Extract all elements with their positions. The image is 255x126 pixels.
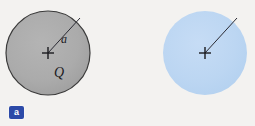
panel-badge-a: a bbox=[9, 106, 24, 119]
sphere-b-container bbox=[163, 8, 253, 98]
sphere-b-diagram bbox=[163, 8, 253, 98]
sphere-a-diagram bbox=[4, 8, 94, 98]
sphere-a-container bbox=[4, 8, 94, 98]
figure-panel-a: a Q a bbox=[0, 0, 130, 126]
charge-label-a: Q bbox=[54, 66, 64, 80]
radius-label-a: a bbox=[61, 33, 67, 45]
figure-panel-b: a Q b bbox=[130, 0, 255, 126]
figure-root: a Q a bbox=[0, 0, 255, 126]
